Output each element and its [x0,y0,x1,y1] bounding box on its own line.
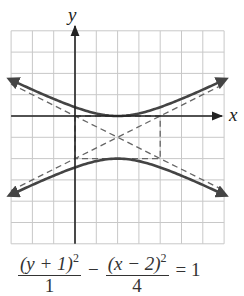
fraction-x-term: (x − 2)2 4 [106,247,169,296]
exponent-x: 2 [161,251,167,265]
exponent-y: 2 [73,251,79,265]
numerator-y: (y + 1) [20,253,73,274]
hyperbola-equation: (y + 1)2 1 − (x − 2)2 4 = 1 [18,247,208,296]
denominator-x: 4 [132,276,142,296]
y-axis-label: y [66,4,77,25]
coordinate-axes [11,26,222,244]
denominator-y: 1 [45,276,55,296]
minus-operator: − [88,259,99,281]
equals-one: = 1 [176,259,201,281]
numerator-x: (x − 2) [108,253,161,274]
fraction-y-term: (y + 1)2 1 [18,247,81,296]
x-axis-label: x [228,104,238,125]
